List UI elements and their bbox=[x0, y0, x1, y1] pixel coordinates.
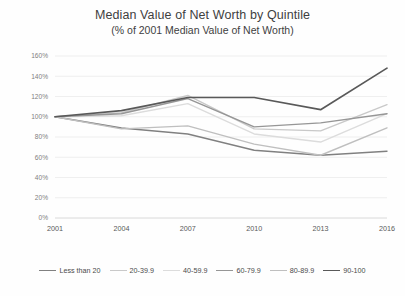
y-axis-tick-label: 160% bbox=[31, 52, 48, 59]
series-layer bbox=[55, 68, 387, 155]
legend-swatch-icon bbox=[163, 270, 180, 271]
legend-item[interactable]: 60-79.9 bbox=[216, 266, 260, 275]
legend-swatch-icon bbox=[110, 270, 127, 271]
legend-label: 40-59.9 bbox=[183, 266, 207, 275]
x-axis-tick-label: 2016 bbox=[379, 224, 395, 233]
series-line-40-59-9 bbox=[55, 104, 387, 142]
legend-swatch-icon bbox=[323, 270, 340, 271]
chart-subtitle: (% of 2001 Median Value of Net Worth) bbox=[0, 23, 405, 37]
y-axis-tick-label: 140% bbox=[31, 73, 48, 80]
legend-item[interactable]: Less than 20 bbox=[39, 266, 100, 275]
series-line-80-89-9 bbox=[55, 117, 387, 155]
y-axis-tick-label: 60% bbox=[35, 154, 48, 161]
legend-swatch-icon bbox=[270, 270, 287, 271]
x-axis-tick-labels: 200120042007201020132016 bbox=[47, 224, 395, 233]
y-axis-tick-labels: 0%20%40%60%80%100%120%140%160% bbox=[31, 52, 48, 221]
legend-label: 20-39.9 bbox=[130, 266, 154, 275]
y-axis-tick-label: 0% bbox=[38, 214, 48, 221]
chart-legend: Less than 2020-39.940-59.960-79.980-89.9… bbox=[0, 262, 405, 278]
x-axis-tick-label: 2007 bbox=[180, 224, 196, 233]
x-axis-tick-label: 2010 bbox=[246, 224, 262, 233]
legend-item[interactable]: 20-39.9 bbox=[110, 266, 154, 275]
plot-area: 0%20%40%60%80%100%120%140%160% 200120042… bbox=[0, 48, 405, 248]
line-chart-svg: 0%20%40%60%80%100%120%140%160% 200120042… bbox=[0, 48, 405, 248]
y-axis-tick-label: 40% bbox=[35, 174, 48, 181]
legend-label: 90-100 bbox=[343, 266, 365, 275]
y-axis-tick-label: 120% bbox=[31, 93, 48, 100]
x-axis-tick-label: 2013 bbox=[313, 224, 329, 233]
series-line-90-100 bbox=[55, 68, 387, 117]
legend-swatch-icon bbox=[39, 270, 56, 271]
title-block: Median Value of Net Worth by Quintile (%… bbox=[0, 8, 405, 37]
legend-item[interactable]: 90-100 bbox=[323, 266, 365, 275]
y-axis-tick-label: 80% bbox=[35, 133, 48, 140]
legend-label: 60-79.9 bbox=[236, 266, 260, 275]
series-line-less-than-20 bbox=[55, 117, 387, 155]
y-axis-tick-label: 20% bbox=[35, 194, 48, 201]
legend-swatch-icon bbox=[216, 270, 233, 271]
y-axis-tick-label: 100% bbox=[31, 113, 48, 120]
x-axis-tick-label: 2001 bbox=[47, 224, 63, 233]
chart-title: Median Value of Net Worth by Quintile bbox=[0, 8, 405, 23]
legend-item[interactable]: 40-59.9 bbox=[163, 266, 207, 275]
legend-item[interactable]: 80-89.9 bbox=[270, 266, 314, 275]
chart-card: Median Value of Net Worth by Quintile (%… bbox=[0, 0, 405, 296]
legend-label: 80-89.9 bbox=[290, 266, 314, 275]
legend-label: Less than 20 bbox=[59, 266, 100, 275]
x-axis-tick-label: 2004 bbox=[113, 224, 129, 233]
gridlines bbox=[55, 56, 387, 218]
